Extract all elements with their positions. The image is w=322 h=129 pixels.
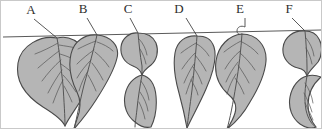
leader-line-a (34, 19, 57, 38)
leaf-label-a: A (26, 2, 36, 17)
leaf-label-b: B (79, 1, 88, 16)
petiole-e (237, 26, 245, 34)
leaf-label-f: F (285, 1, 292, 16)
leaf-morphology-figure: ABCDEF (0, 0, 322, 129)
leader-line-b (87, 18, 97, 35)
leaf-diagram-canvas: ABCDEF (1, 1, 321, 128)
branch-line (3, 30, 321, 37)
leaf-group-d (174, 18, 215, 128)
leaf-label-e: E (236, 1, 244, 16)
leaf-blade-f (283, 31, 321, 76)
leader-line-c (130, 18, 138, 33)
leaf-label-d: D (174, 1, 183, 16)
leaf-blade-d (174, 36, 215, 128)
leader-line-f (292, 18, 305, 31)
leaf-label-c: C (124, 1, 133, 16)
leaf-group-f (283, 18, 321, 128)
leaf-group-e (216, 18, 266, 128)
